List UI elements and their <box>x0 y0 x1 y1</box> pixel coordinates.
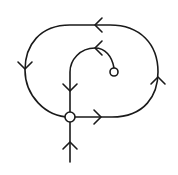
saddle-point <box>65 112 75 122</box>
homoclinic-loop <box>25 25 158 117</box>
phase-portrait-diagram <box>0 0 178 175</box>
unstable-point <box>110 68 118 76</box>
inner-orbit <box>70 48 114 117</box>
